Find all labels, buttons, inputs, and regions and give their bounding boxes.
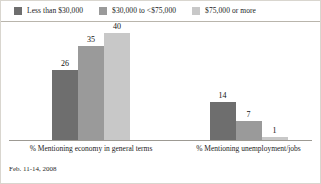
bar-rect: [236, 121, 262, 140]
bar-rect: [78, 46, 104, 140]
legend-swatch-mid-income: [99, 7, 107, 15]
legend-label-high-income: $75,000 or more: [205, 7, 256, 15]
legend-label-low-income: Less than $30,000: [27, 7, 83, 15]
bar-value-label: 26: [61, 60, 69, 68]
bar-economy-high-income: 40: [104, 22, 130, 140]
plot-area: 26 35 40 14 7 1: [1, 22, 320, 141]
bar-value-label: 7: [247, 111, 251, 119]
bar-chart-figure: Less than $30,000 $30,000 to <$75,000 $7…: [0, 0, 321, 184]
legend-label-mid-income: $30,000 to <$75,000: [112, 7, 176, 15]
bar-rect: [52, 70, 78, 140]
bar-unemployment-high-income: 1: [262, 22, 288, 140]
bar-value-label: 1: [273, 127, 277, 135]
category-axis: % Mentioning economy in general terms % …: [1, 142, 320, 158]
bar-economy-low-income: 26: [52, 22, 78, 140]
survey-date-note: Feb. 11-14, 2008: [9, 166, 57, 173]
category-label-unemployment: % Mentioning unemployment/jobs: [181, 142, 316, 156]
legend-item-mid-income: $30,000 to <$75,000: [99, 7, 176, 15]
bar-value-label: 40: [113, 23, 121, 31]
bar-group-economy: 26 35 40: [11, 22, 171, 140]
bar-unemployment-low-income: 14: [210, 22, 236, 140]
chart-legend: Less than $30,000 $30,000 to <$75,000 $7…: [1, 1, 320, 22]
legend-swatch-low-income: [14, 7, 22, 15]
legend-swatch-high-income: [192, 7, 200, 15]
bar-unemployment-mid-income: 7: [236, 22, 262, 140]
bar-value-label: 14: [219, 92, 227, 100]
bar-value-label: 35: [87, 36, 95, 44]
bar-rect: [104, 33, 130, 140]
bar-rect: [210, 102, 236, 140]
bar-group-unemployment: 14 7 1: [181, 22, 316, 140]
bar-economy-mid-income: 35: [78, 22, 104, 140]
legend-item-high-income: $75,000 or more: [192, 7, 256, 15]
category-label-economy: % Mentioning economy in general terms: [11, 142, 171, 156]
legend-item-low-income: Less than $30,000: [14, 7, 83, 15]
axis-baseline: [9, 140, 312, 141]
